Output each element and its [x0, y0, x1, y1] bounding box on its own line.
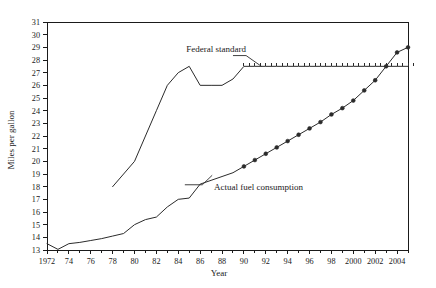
data-point-marker [330, 113, 334, 117]
actual-consumption-label: Actual fuel consumption [214, 182, 303, 192]
plot-border [47, 22, 408, 250]
data-point-marker [297, 133, 301, 137]
y-tick-label: 25 [32, 94, 40, 103]
x-tick-label: 78 [109, 257, 117, 266]
y-tick-label: 24 [32, 107, 40, 116]
data-point-marker [242, 165, 246, 169]
fuel-economy-chart: 13141516171819202122232425262728293031 1… [0, 0, 436, 288]
x-tick-label: 92 [262, 257, 270, 266]
x-tick-label: 76 [87, 257, 95, 266]
x-tick-label: 80 [130, 257, 138, 266]
y-tick-label: 30 [32, 31, 40, 40]
data-point-marker [373, 78, 377, 82]
y-tick-label: 27 [32, 69, 40, 78]
y-tick-label: 29 [32, 43, 40, 52]
data-point-marker [384, 64, 388, 68]
x-tick-label: 88 [218, 257, 226, 266]
y-tick-label: 28 [32, 56, 40, 65]
data-point-marker [362, 89, 366, 93]
x-tick-label: 82 [152, 257, 160, 266]
x-tick-label: 2004 [389, 257, 405, 266]
data-point-marker [308, 126, 312, 130]
y-tick-label: 22 [32, 132, 40, 141]
series-line-0 [113, 66, 408, 186]
x-tick-label: 96 [305, 257, 313, 266]
data-point-marker [351, 99, 355, 103]
y-tick-label: 23 [32, 119, 40, 128]
y-tick-label: 31 [32, 18, 40, 27]
y-tick-label: 21 [32, 145, 40, 154]
x-axis-ticks: 1972747678808284868890929496982000200220… [39, 250, 408, 266]
x-tick-label: 94 [284, 257, 292, 266]
data-point-marker [286, 139, 290, 143]
x-tick-label: 98 [327, 257, 335, 266]
data-point-marker [319, 120, 323, 124]
data-series-layer [47, 45, 413, 249]
x-tick-label: 84 [174, 257, 182, 266]
data-point-marker [275, 146, 279, 150]
federal-standard-label: Federal standard [186, 44, 246, 54]
x-tick-label: 74 [65, 257, 73, 266]
data-point-marker [253, 158, 257, 162]
y-tick-label: 26 [32, 81, 40, 90]
data-point-marker [340, 106, 344, 110]
x-tick-label: 2002 [367, 257, 383, 266]
x-tick-label: 1972 [39, 257, 55, 266]
series-line-1 [47, 47, 408, 249]
x-tick-label: 86 [196, 257, 204, 266]
actual-consumption-leader [185, 175, 212, 185]
y-tick-label: 20 [32, 157, 40, 166]
x-tick-label: 90 [240, 257, 248, 266]
y-axis-title: Miles per gallon [6, 110, 16, 169]
data-point-marker [406, 45, 410, 49]
y-tick-label: 15 [32, 221, 40, 230]
plot-frame [47, 22, 408, 250]
x-axis-title: Year [211, 268, 228, 278]
y-tick-label: 13 [32, 246, 40, 255]
federal-standard-leader [233, 56, 261, 67]
chart-canvas: 13141516171819202122232425262728293031 1… [0, 0, 436, 288]
y-tick-label: 19 [32, 170, 40, 179]
x-tick-label: 2000 [345, 257, 361, 266]
y-axis-ticks: 13141516171819202122232425262728293031 [32, 18, 47, 255]
y-tick-label: 16 [32, 208, 40, 217]
y-tick-label: 14 [32, 233, 40, 242]
y-tick-label: 18 [32, 183, 40, 192]
y-tick-label: 17 [32, 195, 40, 204]
data-point-marker [264, 152, 268, 156]
data-point-marker [395, 51, 399, 55]
